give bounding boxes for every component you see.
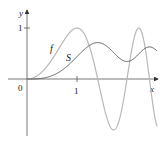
chart: y x 0 1 1 f S — [0, 0, 166, 144]
f-label: f — [50, 43, 54, 54]
x-tick-label: 1 — [74, 86, 79, 96]
y-tick-label: 1 — [18, 23, 23, 33]
s-label: S — [66, 52, 71, 63]
y-axis-label: y — [18, 8, 23, 18]
s-curve — [27, 43, 157, 79]
origin-label: 0 — [18, 83, 23, 93]
